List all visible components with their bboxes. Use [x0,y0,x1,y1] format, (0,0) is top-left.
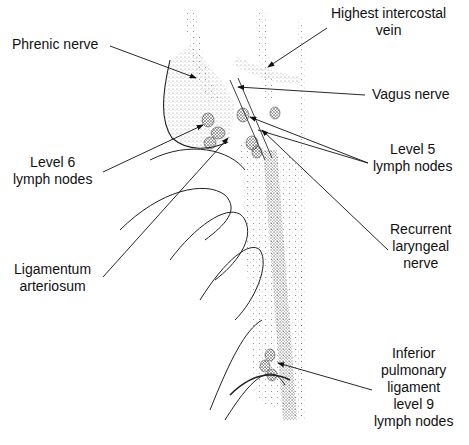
label-highest-intercostal-vein: Highest intercostal vein [331,5,446,39]
label-line: level 9 [374,396,453,413]
label-line: nerve [390,255,451,272]
label-line: pulmonary [374,362,453,379]
label-line: ligament [374,379,453,396]
label-vagus-nerve: Vagus nerve [372,86,450,103]
label-phrenic-nerve: Phrenic nerve [12,36,98,53]
label-line: Ligamentum [14,261,91,278]
leader-ligamentum [103,138,228,277]
leader-highest-intercostal-vein [268,28,327,67]
label-line: Level 5 [373,141,452,158]
level9-node [260,360,270,372]
label-recurrent-laryngeal-nerve: Recurrent laryngeal nerve [390,221,451,272]
label-line: Inferior [374,345,453,362]
level6-node [211,127,225,139]
leader-level6 [103,125,203,172]
label-level6: Level 6 lymph nodes [13,154,92,188]
label-line: arteriosum [14,278,91,295]
label-line: Level 6 [13,154,92,171]
label-inferior-pulmonary-ligament: Inferior pulmonary ligament level 9 lymp… [374,345,453,430]
level5-node [237,108,249,122]
level9-node [267,369,277,381]
label-ligamentum-arteriosum: Ligamentum arteriosum [14,261,91,295]
label-line: lymph nodes [373,158,452,175]
label-line: Phrenic nerve [12,36,98,53]
level5-node [252,146,262,158]
level6-node [204,137,216,149]
label-line: lymph nodes [13,171,92,188]
label-line: laryngeal [390,238,451,255]
level9-node [265,349,275,361]
label-line: lymph nodes [374,413,453,430]
label-level5: Level 5 lymph nodes [373,141,452,175]
level6-node [202,113,214,127]
label-line: Recurrent [390,221,451,238]
label-line: Highest intercostal [331,5,446,22]
level5-node [270,107,280,119]
label-line: Vagus nerve [372,86,450,103]
label-line: vein [331,22,446,39]
